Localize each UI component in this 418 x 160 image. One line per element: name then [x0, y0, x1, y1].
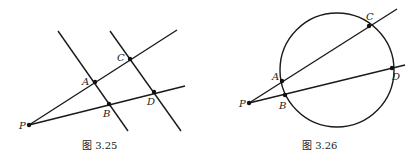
label-c: C	[366, 11, 374, 22]
caption-3-25: 图 3.25	[82, 140, 117, 151]
point-p	[27, 123, 31, 127]
point-c	[367, 24, 371, 28]
label-d: D	[146, 96, 155, 107]
secant-pc	[249, 9, 397, 103]
parallel-line-ab	[58, 31, 128, 131]
point-a	[93, 80, 97, 84]
label-b: B	[102, 108, 110, 119]
label-a: A	[271, 71, 279, 82]
figure-3-25: P A C B D 图 3.25	[18, 30, 185, 151]
point-c	[128, 57, 132, 61]
point-a	[280, 79, 284, 83]
label-p: P	[238, 98, 246, 109]
caption-3-26: 图 3.26	[302, 140, 337, 151]
ray-pd	[29, 86, 185, 125]
label-a: A	[81, 76, 89, 87]
label-c: C	[117, 52, 125, 63]
point-b	[283, 93, 287, 97]
parallel-line-cd	[110, 31, 181, 131]
diagram-canvas: P A C B D 图 3.25 P A C B D 图 3.26	[0, 0, 418, 160]
figure-3-26: P A C B D 图 3.26	[238, 9, 405, 151]
point-d	[152, 90, 156, 94]
label-p: P	[18, 120, 26, 131]
point-b	[107, 102, 111, 106]
label-b: B	[278, 100, 286, 111]
label-d: D	[391, 71, 400, 82]
circle	[280, 13, 394, 127]
point-p	[247, 101, 251, 105]
point-d	[390, 66, 394, 70]
